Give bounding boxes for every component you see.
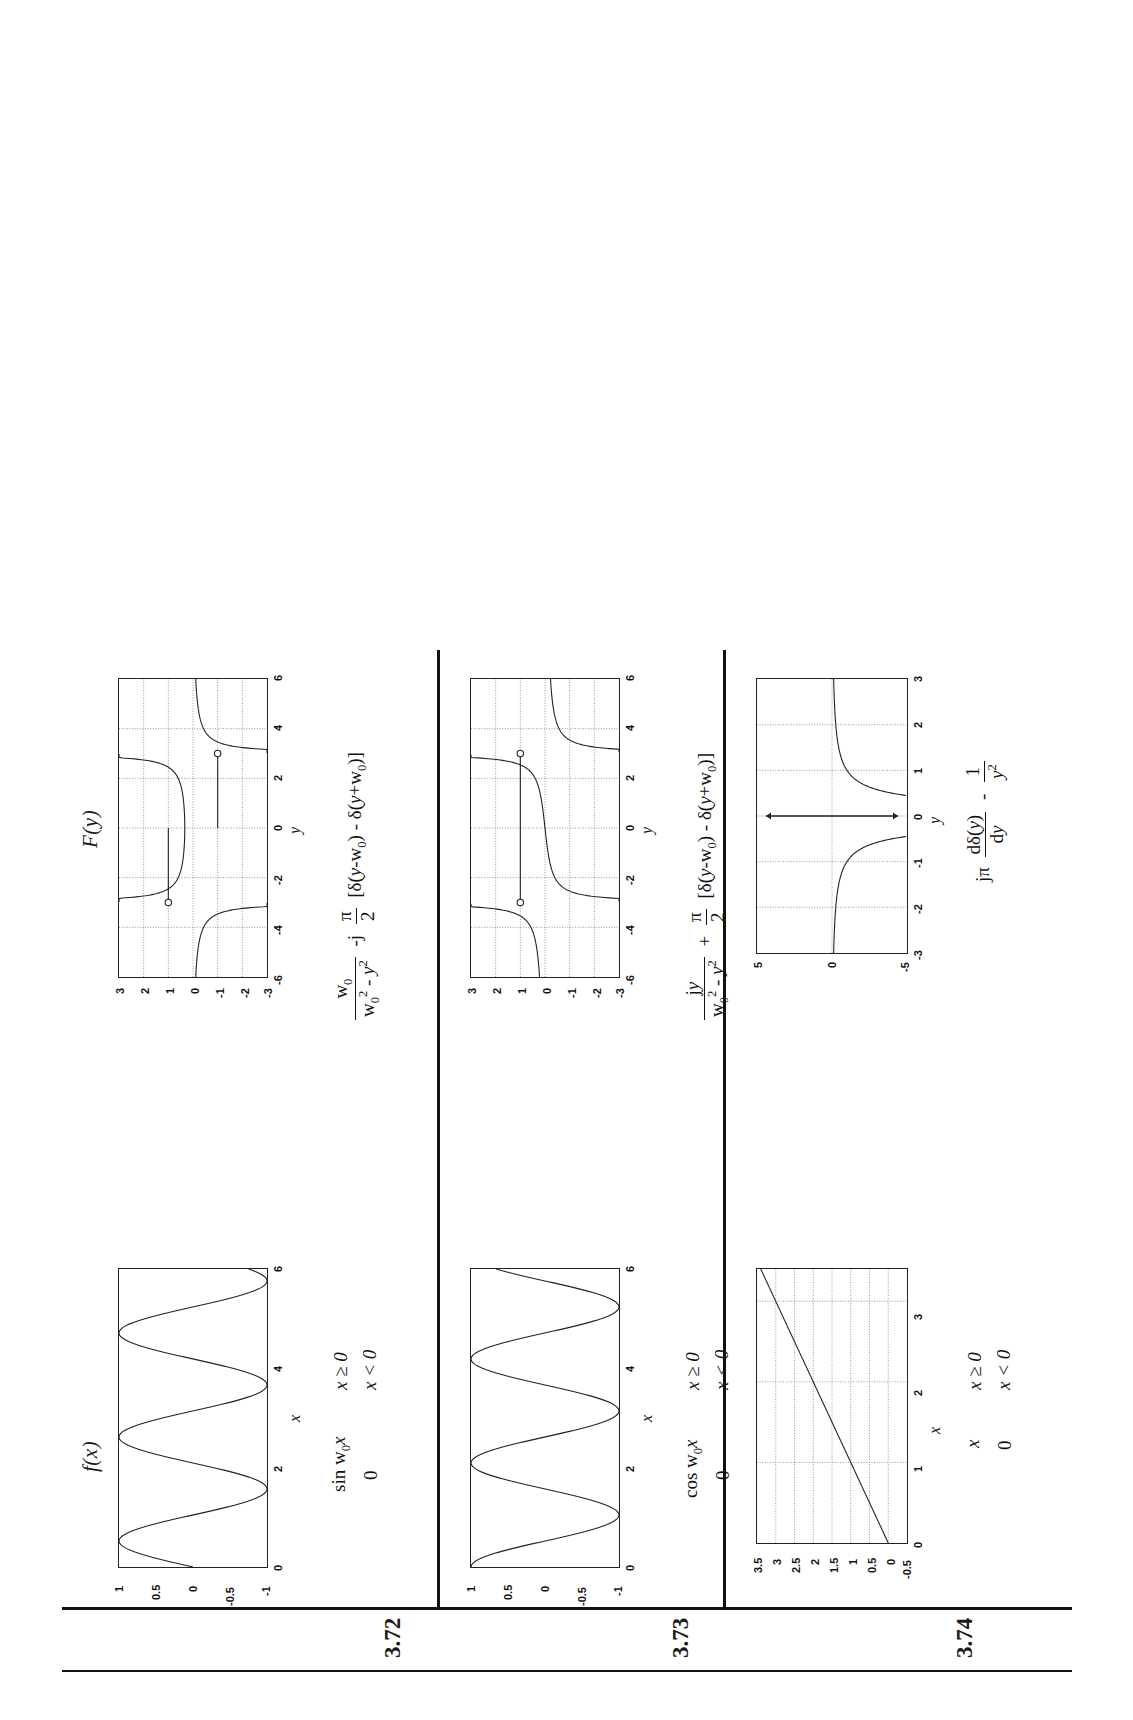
- chart-Fy-3-73-xtick-5: 4: [624, 725, 636, 731]
- row-number-3-73: 3.73: [668, 1618, 694, 1658]
- chart-Fy-3-74-xtick-6: 3: [912, 676, 924, 682]
- chart-Fy-3-73: [470, 678, 620, 978]
- chart-Fy-3-72-xtick-2: -2: [272, 875, 284, 885]
- conditions-fx-3-73: x ≥ 0 x < 0: [678, 1350, 737, 1390]
- chart-fx-3-72-xtick-3: 6: [272, 1266, 284, 1272]
- formula-Fy-3-72-bracket: [δ(y-w0) - δ(y+w0)]: [344, 752, 365, 898]
- chart-fx-3-74-ytick-4: 1.5: [828, 1558, 840, 1573]
- chart-Fy-3-74-xtick-4: 1: [912, 768, 924, 774]
- chart-Fy-3-73-ytick-5: 2: [491, 988, 503, 994]
- chart-fx-3-72: [118, 1268, 268, 1568]
- chart-fx-3-74-ytick-3: 1: [847, 1559, 859, 1565]
- formula-fx-3-73-zero-text: 0: [712, 1471, 733, 1481]
- formula-Fy-3-74-frac1-num: dδ(y): [963, 812, 986, 858]
- chart-fx-3-72-ytick-1: 0.5: [150, 1585, 162, 1600]
- formula-Fy-3-73-frac2-den: 2: [707, 909, 729, 925]
- chart-fx-3-74: [756, 1268, 908, 1544]
- chart-Fy-3-72-xtick-5: 4: [272, 725, 284, 731]
- chart-fx-3-72-xlabel: x: [286, 1415, 304, 1422]
- chart-Fy-3-72-xtick-1: -4: [272, 925, 284, 935]
- formula-Fy-3-72-frac1-den: w02 - y2: [356, 957, 383, 1020]
- chart-Fy-3-73-xlabel: y: [638, 827, 656, 834]
- chart-Fy-3-73-xtick-0: -6: [624, 975, 636, 985]
- chart-fx-3-72-ytick-3: -0.5: [224, 1587, 236, 1606]
- formula-Fy-3-73-op: +: [694, 936, 715, 947]
- chart-Fy-3-73-xtick-4: 2: [624, 775, 636, 781]
- chart-Fy-3-73-xtick-1: -4: [624, 925, 636, 935]
- chart-fx-3-74-ytick-2: 0.5: [866, 1558, 878, 1573]
- chart-Fy-3-72-xtick-4: 2: [272, 775, 284, 781]
- formula-Fy-3-73-bracket: [δ(y-w0) - δ(y+w0)]: [694, 753, 715, 899]
- chart-Fy-3-72-ytick-4: 1: [164, 988, 176, 994]
- chart-Fy-3-73-xtick-6: 6: [624, 675, 636, 681]
- formula-Fy-3-72: w0 w02 - y2 -j π 2 [δ(y-w0) - δ(y+w0)]: [330, 752, 383, 1020]
- chart-fx-3-73-ytick-4: -1: [612, 1586, 624, 1596]
- chart-Fy-3-74-xlabel: y: [926, 817, 944, 824]
- chart-fx-3-73-ytick-1: 0.5: [502, 1585, 514, 1600]
- chart-Fy-3-72-ytick-6: 3: [114, 988, 126, 994]
- chart-fx-3-74-ytick-0: -0.5: [901, 1560, 913, 1579]
- chart-fx-3-74-canvas: [757, 1269, 907, 1543]
- chart-Fy-3-73-ytick-3: 0: [541, 988, 553, 994]
- condition-fx-3-74-a: x ≥ 0: [960, 1350, 989, 1390]
- chart-Fy-3-72-xtick-6: 6: [272, 675, 284, 681]
- formula-fx-3-74-zero-text: 0: [994, 1441, 1015, 1451]
- chart-fx-3-74-ytick-6: 2.5: [790, 1558, 802, 1573]
- formula-Fy-3-74: jπ dδ(y) dy - 1 y2: [962, 761, 1008, 882]
- chart-Fy-3-74-ytick-0: -5: [899, 962, 911, 972]
- table-left-border: [62, 1670, 1072, 1672]
- condition-fx-3-74-b: x < 0: [989, 1350, 1018, 1390]
- formula-fx-3-73-main: cos w0x: [680, 1439, 701, 1498]
- row-number-3-74: 3.74: [952, 1618, 978, 1658]
- chart-Fy-3-72-xtick-0: -6: [272, 975, 284, 985]
- chart-fx-3-73-xtick-1: 2: [624, 1466, 636, 1472]
- chart-fx-3-72-canvas: [119, 1269, 267, 1567]
- formula-fx-3-72-zero: 0: [360, 1471, 382, 1481]
- chart-fx-3-74-xtick-3: 3: [912, 1314, 924, 1320]
- chart-Fy-3-73-xtick-3: 0: [624, 825, 636, 831]
- formula-Fy-3-73-frac1-num: jy: [682, 957, 705, 1020]
- table-row-divider-1: [437, 650, 440, 1610]
- chart-Fy-3-73-ytick-2: -1: [566, 988, 578, 998]
- formula-Fy-3-74-frac1: dδ(y) dy: [963, 812, 1008, 858]
- formula-Fy-3-74-frac1-den: dy: [986, 812, 1008, 858]
- chart-Fy-3-74-xtick-5: 2: [912, 722, 924, 728]
- table-column-divider: [62, 1607, 1072, 1610]
- formula-Fy-3-72-frac1-num: w0: [330, 957, 356, 1020]
- chart-fx-3-72-xtick-0: 0: [272, 1565, 284, 1571]
- chart-fx-3-74-xlabel: x: [926, 1427, 944, 1434]
- chart-fx-3-73-ytick-0: 1: [465, 1586, 477, 1592]
- chart-fx-3-74-ytick-1: 0: [885, 1559, 897, 1565]
- chart-Fy-3-73-ytick-6: 3: [466, 988, 478, 994]
- chart-fx-3-73-ytick-2: 0: [539, 1586, 551, 1592]
- formula-Fy-3-73-frac2-num: π: [684, 909, 707, 925]
- chart-Fy-3-72-ytick-0: -3: [262, 988, 274, 998]
- condition-fx-3-73-b: x < 0: [707, 1350, 736, 1390]
- chart-fx-3-72-ytick-2: 0: [187, 1586, 199, 1592]
- formula-Fy-3-72-frac2-den: 2: [357, 909, 379, 925]
- formula-Fy-3-72-frac1: w0 w02 - y2: [330, 957, 383, 1020]
- chart-Fy-3-74-xtick-0: -3: [912, 950, 924, 960]
- formula-Fy-3-74-lead: jπ: [972, 867, 993, 882]
- chart-Fy-3-72-ytick-5: 2: [139, 988, 151, 994]
- chart-Fy-3-73-ytick-4: 1: [516, 988, 528, 994]
- chart-Fy-3-74-canvas: [757, 679, 907, 953]
- chart-Fy-3-72-ytick-3: 0: [189, 988, 201, 994]
- chart-Fy-3-72-ytick-2: -1: [214, 988, 226, 998]
- chart-Fy-3-72-ytick-1: -2: [239, 988, 251, 998]
- chart-fx-3-73: [470, 1268, 620, 1568]
- column-header-fx: f(x): [78, 1441, 103, 1472]
- chart-fx-3-73-xtick-2: 4: [624, 1366, 636, 1372]
- formula-fx-3-74-main: x: [962, 1440, 983, 1448]
- chart-Fy-3-73-ytick-0: -3: [614, 988, 626, 998]
- chart-Fy-3-73-ytick-1: -2: [591, 988, 603, 998]
- chart-Fy-3-74: [756, 678, 908, 954]
- formula-fx-3-73: cos w0x: [680, 1439, 705, 1498]
- formula-Fy-3-74-op: -: [972, 794, 993, 800]
- formula-Fy-3-72-frac2-num: π: [334, 909, 357, 925]
- scanned-page: f(x) F(y) 3.72 3.73 3.74 0 2 4 6 x 1 0.5…: [0, 0, 1133, 1720]
- condition-fx-3-73-a: x ≥ 0: [678, 1350, 707, 1390]
- chart-Fy-3-74-xtick-2: -1: [912, 858, 924, 868]
- condition-fx-3-72-b: x < 0: [355, 1350, 384, 1390]
- row-number-3-72: 3.72: [380, 1618, 406, 1658]
